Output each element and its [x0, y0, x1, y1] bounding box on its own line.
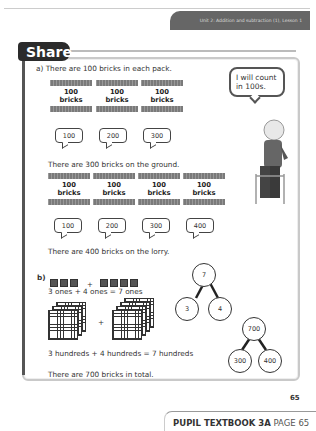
character-illustration: [252, 118, 292, 206]
hundreds-sentence: 3 hundreds + 4 hundreds = 7 hundreds: [48, 349, 193, 358]
brick-pack: 100bricks: [50, 80, 92, 112]
hundred-square: [112, 310, 142, 340]
cube-icon: [70, 279, 78, 287]
brick-pack: 100bricks: [141, 80, 183, 112]
unit-label: Unit 2: Addition and subtraction (1), Le…: [200, 18, 302, 23]
cube-icon: [130, 279, 138, 287]
row2-summary: There are 400 bricks on the lorry.: [48, 247, 169, 256]
part-b-label: b): [37, 273, 46, 282]
footer-label: PUPIL TEXTBOOK 3A PAGE 65: [164, 411, 316, 431]
divider: [68, 50, 296, 52]
row1-summary: There are 300 bricks on the ground.: [48, 160, 179, 169]
brick-pack: 100bricks: [96, 80, 138, 112]
unit-header-tab: Unit 2: Addition and subtraction (1), Le…: [170, 11, 310, 30]
footer-page: PAGE 65: [274, 418, 310, 428]
section-title: Share: [18, 42, 70, 61]
cube-icon: [100, 279, 108, 287]
brick-pack: 100bricks: [93, 173, 135, 205]
bond-part: 300: [228, 349, 252, 373]
ones-sentence: 3 ones + 4 ones = 7 ones: [48, 287, 143, 296]
bond-whole: 700: [242, 317, 266, 341]
divider: [22, 60, 25, 375]
part-a-intro: a) There are 100 bricks in each pack.: [36, 64, 172, 73]
page-number: 65: [290, 394, 300, 402]
bond-part: 4: [208, 297, 232, 321]
brick-pack: 100bricks: [138, 173, 180, 205]
count-bubble: 300: [142, 218, 170, 233]
bond-part: 400: [258, 349, 282, 373]
brick-pack: 100bricks: [183, 173, 225, 205]
count-bubble: 100: [54, 218, 82, 233]
cube-icon: [110, 279, 118, 287]
brick-pack: 100bricks: [48, 173, 90, 205]
plus-sign: +: [98, 318, 104, 327]
cube-icon: [50, 279, 58, 287]
count-bubble: 300: [143, 128, 171, 143]
count-bubble: 400: [186, 218, 214, 233]
cube-icon: [60, 279, 68, 287]
count-bubble: 100: [55, 128, 83, 143]
bond-part: 3: [175, 297, 199, 321]
total-sentence: There are 700 bricks in total.: [48, 370, 154, 379]
count-bubble: 200: [99, 128, 127, 143]
bond-whole: 7: [192, 263, 216, 287]
cube-icon: [120, 279, 128, 287]
speech-bubble: I will count in 100s.: [229, 67, 285, 97]
count-bubble: 200: [98, 218, 126, 233]
hundred-square: [48, 310, 78, 340]
book-title: PUPIL TEXTBOOK 3A: [173, 418, 271, 428]
